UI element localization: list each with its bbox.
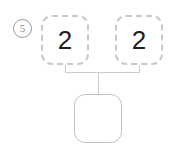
worksheet-problem: 5 2 2: [0, 0, 178, 151]
connector-drop-line: [98, 72, 99, 95]
sum-answer-box[interactable]: [74, 94, 122, 143]
addend-box-2[interactable]: 2: [115, 15, 163, 65]
addend-value-1: 2: [58, 27, 72, 53]
addend-value-2: 2: [132, 27, 146, 53]
problem-number-badge: 5: [13, 19, 32, 38]
connector-horizontal-bar: [65, 72, 140, 73]
addend-box-1[interactable]: 2: [41, 15, 89, 65]
